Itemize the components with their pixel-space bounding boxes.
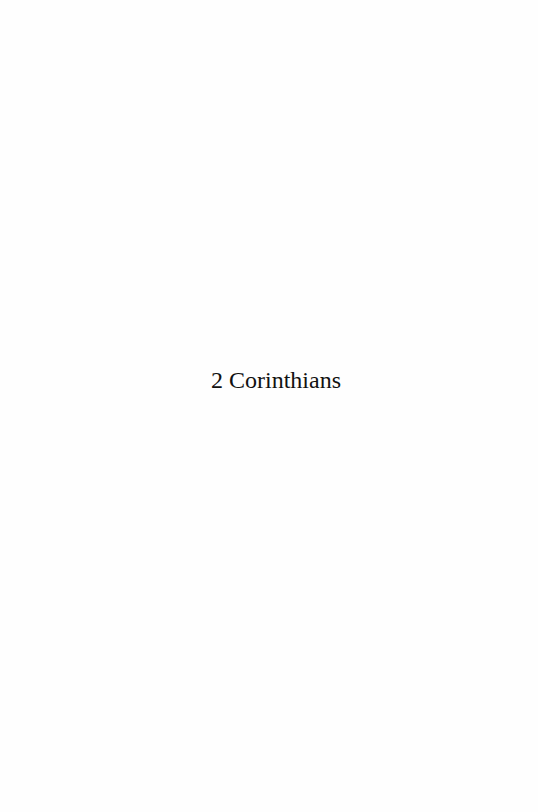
book-title: 2 Corinthians bbox=[0, 366, 538, 394]
document-page: 2 Corinthians bbox=[0, 0, 538, 812]
